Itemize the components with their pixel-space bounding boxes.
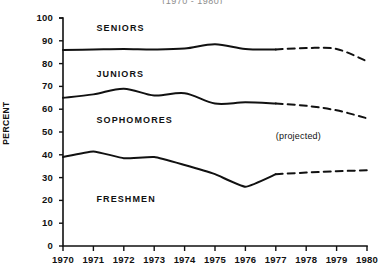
series-line-juniors-observed bbox=[63, 89, 276, 104]
series-line-seniors-projected bbox=[276, 48, 367, 62]
chart-axes bbox=[59, 18, 367, 251]
series-line-sophomores-projected bbox=[276, 170, 367, 174]
series-line-sophomores-observed bbox=[63, 151, 276, 186]
series-line-seniors-observed bbox=[63, 44, 276, 50]
plot-area bbox=[0, 0, 385, 267]
series-paths bbox=[63, 44, 367, 187]
enrollment-percent-line-chart: (1970 - 1980) PERCENT 010203040506070809… bbox=[0, 0, 385, 267]
series-line-juniors-projected bbox=[276, 104, 367, 119]
